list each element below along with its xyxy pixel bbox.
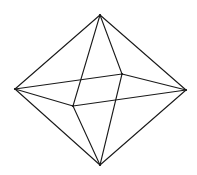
vertex-back-right	[121, 73, 123, 75]
vertex-right	[185, 89, 187, 91]
edge-bottom-right	[100, 90, 186, 165]
vertex-front-left	[72, 105, 74, 107]
vertex-bottom	[99, 164, 101, 166]
edge-left-back-right	[15, 74, 122, 89]
edge-bottom-front-left	[73, 106, 100, 165]
edge-top-back-right	[100, 15, 122, 74]
edge-top-left	[15, 15, 100, 89]
vertex-top	[99, 14, 101, 16]
octahedron-wireframe	[0, 0, 197, 175]
vertex-left	[14, 88, 16, 90]
edge-right-front-left	[73, 90, 186, 106]
edge-bottom-left	[15, 89, 100, 165]
edge-top-front-left	[73, 15, 100, 106]
edge-bottom-back-right	[100, 74, 122, 165]
octahedron-diagram	[0, 0, 197, 175]
